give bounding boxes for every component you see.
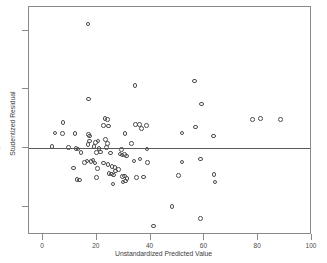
data-point [199, 102, 204, 107]
data-point [111, 182, 116, 187]
data-point [145, 147, 150, 152]
x-axis-tick [311, 234, 312, 240]
x-axis-tick-label: 40 [138, 242, 162, 249]
data-point [198, 216, 203, 221]
data-point [86, 22, 91, 27]
data-point [124, 154, 129, 159]
data-point [250, 117, 255, 122]
data-point [86, 142, 91, 147]
data-point [86, 97, 91, 102]
data-point [193, 125, 198, 130]
data-point [111, 173, 116, 178]
data-point [129, 141, 134, 146]
data-point [92, 144, 97, 149]
y-axis-tick [22, 30, 28, 31]
data-point [98, 150, 103, 155]
data-point [123, 131, 128, 136]
data-point [198, 157, 203, 162]
data-point [61, 120, 66, 125]
x-axis-tick-label: 60 [191, 242, 215, 249]
data-point [180, 160, 185, 165]
x-axis-tick [96, 234, 97, 240]
x-axis-tick-label: 20 [84, 242, 108, 249]
x-axis-tick [42, 234, 43, 240]
data-point [73, 131, 78, 136]
data-point [94, 175, 99, 180]
y-axis-tick [22, 88, 28, 89]
x-axis-tick-label: 0 [30, 242, 54, 249]
data-point [211, 134, 216, 139]
data-point [176, 173, 181, 178]
data-point [141, 175, 146, 180]
data-point [138, 157, 143, 162]
data-point [180, 131, 185, 136]
data-point [93, 161, 98, 166]
zero-reference-line [29, 148, 310, 149]
data-point [53, 131, 58, 136]
data-point [95, 166, 100, 171]
data-point [145, 160, 150, 165]
data-point [139, 126, 144, 131]
data-point [192, 79, 197, 84]
data-point [77, 178, 82, 183]
data-point [144, 123, 149, 128]
data-point [66, 145, 71, 150]
data-point [101, 161, 106, 166]
y-axis-title: Studentized Residual [9, 64, 16, 184]
data-point [104, 145, 109, 150]
scatter-chart: -2024 020406080100 Unstandardized Predic… [0, 0, 327, 263]
data-point [213, 180, 218, 185]
data-point [71, 166, 76, 171]
data-point [106, 124, 111, 129]
data-point [258, 116, 263, 121]
data-point [132, 159, 137, 164]
data-point [105, 117, 110, 122]
data-point [50, 144, 55, 149]
data-point [113, 169, 118, 174]
data-point [87, 134, 92, 139]
y-axis-tick [22, 206, 28, 207]
data-point [133, 83, 138, 88]
data-point [170, 204, 175, 209]
x-axis-tick [257, 234, 258, 240]
x-axis-tick [203, 234, 204, 240]
x-axis-tick [150, 234, 151, 240]
data-point [134, 175, 139, 180]
x-axis-tick-label: 80 [245, 242, 269, 249]
data-point [96, 139, 101, 144]
data-point [151, 224, 156, 229]
plot-area [28, 6, 311, 234]
x-axis-title: Unstandardized Predicted Value [0, 250, 327, 257]
data-point [123, 179, 128, 184]
data-point [212, 172, 217, 177]
x-axis-tick-label: 100 [299, 242, 323, 249]
data-point [60, 131, 65, 136]
y-axis-tick [22, 147, 28, 148]
data-point [108, 151, 113, 156]
data-point [79, 150, 84, 155]
data-point [278, 117, 283, 122]
